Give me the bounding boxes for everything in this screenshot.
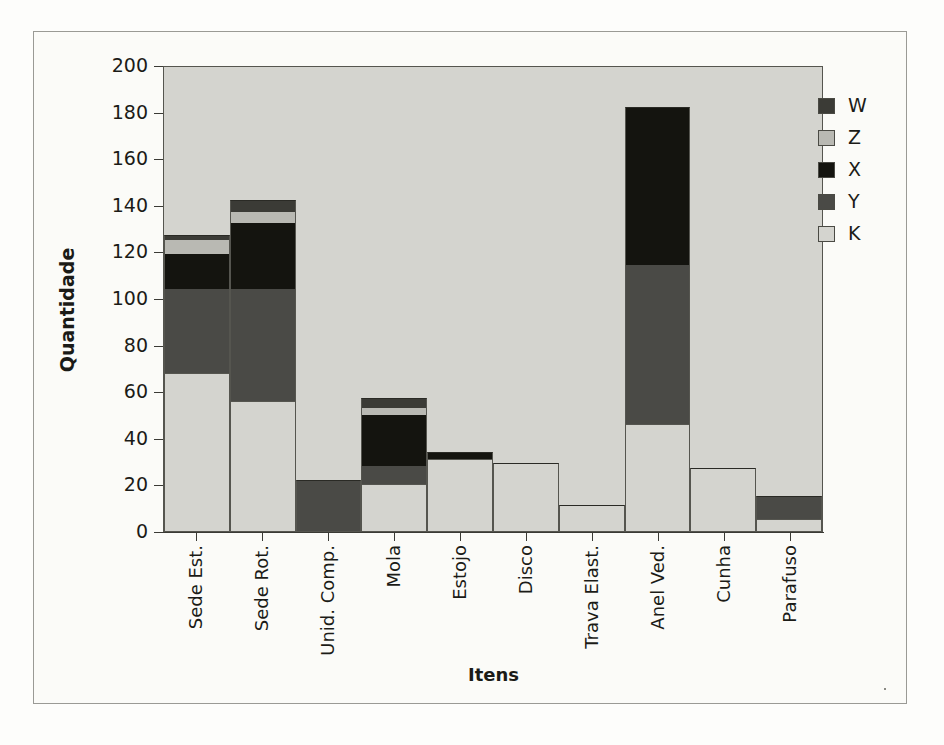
bar-disco[interactable]: [493, 67, 559, 531]
bar-segment-z: [230, 212, 296, 224]
x-tick-slot: Cunha: [691, 545, 757, 660]
bar-segment-x: [427, 452, 493, 459]
bar-cunha[interactable]: [690, 67, 756, 531]
x-tick-label-6: Trava Elast.: [583, 545, 601, 649]
bar-mola[interactable]: [361, 67, 427, 531]
y-tick-120: [154, 252, 163, 253]
y-tick-label-80: 80: [48, 334, 148, 356]
bar-segment-y: [361, 466, 427, 485]
x-tick-7: [658, 532, 659, 541]
bar-estojo[interactable]: [427, 67, 493, 531]
x-tick-1: [262, 532, 263, 541]
x-tick-slot: Sede Rot.: [229, 545, 295, 660]
bar-segment-k: [559, 505, 625, 531]
y-tick-60: [154, 392, 163, 393]
bar-segment-k: [690, 468, 756, 531]
legend-swatch-k: [818, 226, 835, 242]
y-tick-180: [154, 113, 163, 114]
x-tick-label-9: Parafuso: [781, 545, 799, 623]
legend-label: X: [848, 160, 861, 179]
y-tick-label-20: 20: [48, 473, 148, 495]
x-tick-label-5: Disco: [517, 545, 535, 594]
y-tick-200: [154, 66, 163, 67]
x-tick-slot: Unid. Comp.: [295, 545, 361, 660]
y-tick-0: [154, 532, 163, 533]
legend-item-z[interactable]: Z: [818, 129, 867, 146]
chart-legend: WZXYK: [818, 97, 867, 242]
bar-group: [164, 67, 822, 531]
x-tick-8: [724, 532, 725, 541]
x-tick-9: [790, 532, 791, 541]
x-tick-slot: Disco: [493, 545, 559, 660]
bar-segment-k: [756, 519, 822, 531]
bar-segment-y: [296, 480, 362, 531]
legend-label: Z: [848, 128, 861, 147]
y-tick-label-100: 100: [48, 287, 148, 309]
x-tick-label-0: Sede Est.: [187, 545, 205, 629]
x-tick-slot: Sede Est.: [163, 545, 229, 660]
bar-segment-x: [230, 223, 296, 288]
legend-item-x[interactable]: X: [818, 161, 867, 178]
x-tick-label-3: Mola: [385, 545, 403, 588]
legend-swatch-w: [818, 98, 835, 114]
bar-segment-y: [756, 496, 822, 519]
x-tick-slot: Trava Elast.: [559, 545, 625, 660]
y-tick-label-160: 160: [48, 147, 148, 169]
legend-label: Y: [848, 192, 860, 211]
x-tick-label-2: Unid. Comp.: [319, 545, 337, 656]
x-tick-3: [394, 532, 395, 541]
plot-area: [163, 66, 823, 532]
legend-item-y[interactable]: Y: [818, 193, 867, 210]
legend-label: W: [848, 96, 867, 115]
bar-sede-rot[interactable]: [230, 67, 296, 531]
bar-segment-k: [361, 484, 427, 531]
legend-item-k[interactable]: K: [818, 225, 867, 242]
y-tick-label-120: 120: [48, 240, 148, 262]
x-tick-label-7: Anel Ved.: [649, 545, 667, 630]
x-tick-slot: Mola: [361, 545, 427, 660]
stray-mark: [884, 688, 886, 690]
y-tick-80: [154, 346, 163, 347]
y-tick-160: [154, 159, 163, 160]
legend-swatch-x: [818, 162, 835, 178]
x-tick-6: [592, 532, 593, 541]
bar-segment-z: [164, 240, 230, 254]
y-tick-140: [154, 206, 163, 207]
x-tick-slot: Anel Ved.: [625, 545, 691, 660]
x-tick-label-4: Estojo: [451, 545, 469, 600]
bar-segment-w: [230, 200, 296, 212]
bar-segment-x: [164, 254, 230, 289]
x-tick-0: [196, 532, 197, 541]
bar-trava-elast[interactable]: [559, 67, 625, 531]
x-tick-slot: Parafuso: [757, 545, 823, 660]
x-tick-5: [526, 532, 527, 541]
y-tick-label-40: 40: [48, 427, 148, 449]
legend-item-w[interactable]: W: [818, 97, 867, 114]
y-tick-40: [154, 439, 163, 440]
bar-segment-k: [493, 463, 559, 531]
legend-label: K: [848, 224, 860, 243]
bar-segment-y: [164, 289, 230, 373]
x-axis-labels: Sede Est.Sede Rot.Unid. Comp.MolaEstojoD…: [163, 545, 823, 660]
bar-segment-y: [625, 265, 691, 423]
x-tick-slot: Estojo: [427, 545, 493, 660]
x-tick-2: [328, 532, 329, 541]
bar-segment-z: [361, 408, 427, 415]
bar-anel-ved[interactable]: [625, 67, 691, 531]
chart-page: Quantidade 200180160140120100806040200 S…: [0, 0, 944, 745]
x-tick-label-8: Cunha: [715, 545, 733, 603]
bar-segment-k: [625, 424, 691, 531]
bar-segment-y: [230, 289, 296, 401]
legend-swatch-z: [818, 130, 835, 146]
bar-segment-k: [164, 373, 230, 531]
y-tick-100: [154, 299, 163, 300]
y-tick-label-180: 180: [48, 101, 148, 123]
x-tick-label-1: Sede Rot.: [253, 545, 271, 631]
bar-segment-k: [230, 401, 296, 531]
y-tick-label-0: 0: [48, 520, 148, 542]
bar-sede-est[interactable]: [164, 67, 230, 531]
y-tick-label-140: 140: [48, 194, 148, 216]
y-tick-label-200: 200: [48, 54, 148, 76]
bar-parafuso[interactable]: [756, 67, 822, 531]
bar-unid-comp[interactable]: [296, 67, 362, 531]
